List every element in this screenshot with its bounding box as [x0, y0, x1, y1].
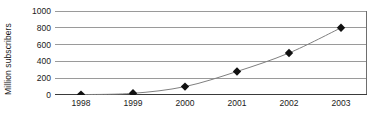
y-axis-title: Million subscribers: [0, 0, 16, 118]
x-tick-label: 2000: [176, 99, 195, 108]
y-tick-label: 800: [37, 24, 51, 33]
y-axis-tick-labels: 02004006008001000: [16, 6, 51, 98]
y-tick-label: 200: [37, 74, 51, 83]
y-tick-label: 400: [37, 57, 51, 66]
y-tick-label: 600: [37, 40, 51, 49]
x-tick-label: 2003: [332, 99, 351, 108]
data-point-marker: [129, 89, 137, 95]
x-tick-label: 2002: [280, 99, 299, 108]
x-tick-label: 2001: [228, 99, 247, 108]
plot-border: [55, 11, 367, 95]
data-point-marker: [337, 24, 345, 32]
data-markers: [77, 24, 345, 95]
y-tick-label: 1000: [32, 7, 51, 16]
data-point-marker: [285, 49, 293, 57]
data-point-marker: [233, 67, 241, 75]
x-tick-label: 1999: [124, 99, 143, 108]
plot-area: [55, 11, 367, 95]
data-point-marker: [77, 90, 85, 95]
x-axis-tick-labels: 199819992000200120022003: [55, 99, 367, 113]
chart-canvas: [55, 11, 367, 95]
y-tick-label: 0: [46, 91, 51, 100]
chart-figure: Million subscribers 02004006008001000 19…: [0, 0, 378, 118]
data-point-marker: [181, 82, 189, 90]
gridlines: [55, 11, 367, 95]
x-tick-label: 1998: [72, 99, 91, 108]
